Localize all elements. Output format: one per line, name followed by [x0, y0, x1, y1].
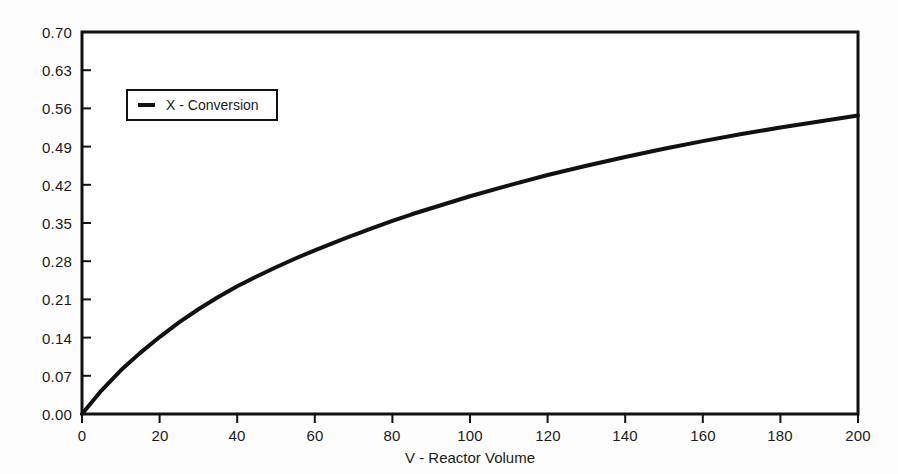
- legend: X - Conversion: [126, 89, 278, 121]
- y-tick-label: 0.00: [14, 406, 72, 423]
- y-tick-label: 0.14: [14, 330, 72, 347]
- x-tick-label: 200: [828, 427, 888, 444]
- y-tick-label: 0.21: [14, 291, 72, 308]
- x-tick-label: 160: [673, 427, 733, 444]
- x-tick-label: 0: [52, 427, 112, 444]
- y-tick-label: 0.42: [14, 177, 72, 194]
- y-tick-label: 0.49: [14, 139, 72, 156]
- x-tick-label: 60: [285, 427, 345, 444]
- y-tick-label: 0.28: [14, 253, 72, 270]
- plot-canvas: [0, 0, 898, 474]
- x-tick-label: 40: [207, 427, 267, 444]
- x-tick-label: 100: [440, 427, 500, 444]
- x-tick-label: 80: [362, 427, 422, 444]
- y-tick-label: 0.56: [14, 100, 72, 117]
- x-tick-label: 180: [750, 427, 810, 444]
- legend-entry-label: X - Conversion: [166, 97, 259, 113]
- y-tick-label: 0.70: [14, 24, 72, 41]
- x-tick-label: 140: [595, 427, 655, 444]
- x-tick-label: 20: [130, 427, 190, 444]
- y-tick-label: 0.35: [14, 215, 72, 232]
- legend-line-marker-icon: [138, 103, 155, 107]
- x-tick-label: 120: [518, 427, 578, 444]
- x-axis-title: V - Reactor Volume: [370, 449, 570, 466]
- chart-figure: 0.70 0.63 0.56 0.49 0.42 0.35 0.28 0.21 …: [0, 0, 898, 474]
- y-tick-label: 0.07: [14, 368, 72, 385]
- y-tick-label: 0.63: [14, 62, 72, 79]
